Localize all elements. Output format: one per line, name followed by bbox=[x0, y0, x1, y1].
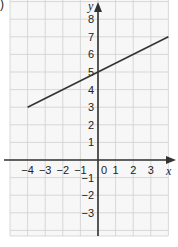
y-tick-label: 4 bbox=[88, 84, 94, 96]
x-axis-label: x bbox=[165, 164, 172, 178]
y-tick-label: −3 bbox=[81, 207, 94, 219]
y-tick-label: −2 bbox=[81, 189, 94, 201]
y-tick-label: 7 bbox=[88, 31, 94, 43]
x-tick-label: 3 bbox=[148, 164, 154, 176]
y-tick-label: 8 bbox=[88, 13, 94, 25]
y-tick-label: 3 bbox=[88, 101, 94, 113]
x-tick-label: −3 bbox=[39, 164, 52, 176]
x-tick-label: 1 bbox=[113, 164, 119, 176]
y-tick-label: 2 bbox=[88, 119, 94, 131]
x-tick-label: −2 bbox=[57, 164, 70, 176]
x-tick-label: 2 bbox=[130, 164, 136, 176]
y-axis-label: y bbox=[87, 0, 94, 13]
y-tick-label: 1 bbox=[88, 136, 94, 148]
x-tick-label: 0 bbox=[101, 164, 107, 176]
x-axis-arrow-icon bbox=[166, 156, 176, 164]
y-tick-label: 6 bbox=[88, 48, 94, 60]
y-tick-label: −1 bbox=[81, 172, 94, 184]
x-tick-label: −4 bbox=[21, 164, 34, 176]
line-graph: xy −4−3−2−10123−3−2−112345678 bbox=[0, 0, 178, 247]
